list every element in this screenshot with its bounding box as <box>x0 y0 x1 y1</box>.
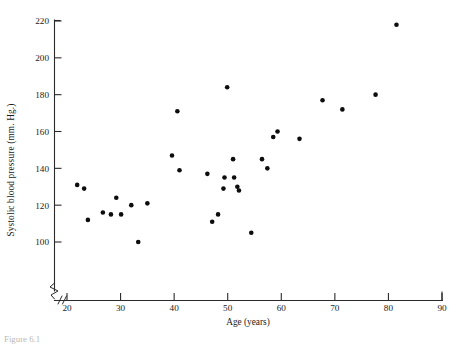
axes-group <box>55 20 443 301</box>
data-point <box>394 22 399 27</box>
data-point <box>320 98 325 103</box>
data-point <box>237 188 242 193</box>
data-point <box>114 196 119 201</box>
x-tick-label: 40 <box>170 303 180 313</box>
y-tick-label: 140 <box>35 164 49 174</box>
data-point <box>222 175 227 180</box>
figure-caption-wrap: Figure 6.1 <box>4 328 144 342</box>
x-tick-label: 90 <box>437 303 447 313</box>
data-point <box>249 230 254 235</box>
data-point <box>129 203 134 208</box>
y-tick-label: 200 <box>35 53 49 63</box>
x-tick-label: 60 <box>277 303 287 313</box>
data-point <box>271 135 276 140</box>
data-point <box>265 166 270 171</box>
y-tick-label: 120 <box>35 201 49 211</box>
y-tick-label: 160 <box>35 127 49 137</box>
y-tick-label: 180 <box>35 90 49 100</box>
y-tick-label: 100 <box>35 237 49 247</box>
x-tick-label: 70 <box>330 303 340 313</box>
x-tick-label: 50 <box>223 303 233 313</box>
data-point <box>119 212 124 217</box>
x-ticks-group: 2030405060708090 <box>62 293 447 313</box>
y-ticks-group: 100120140160180200220 <box>35 16 61 247</box>
data-point <box>373 92 378 97</box>
data-point <box>82 186 87 191</box>
data-point <box>101 210 106 215</box>
data-point <box>260 157 265 162</box>
data-point <box>275 129 280 134</box>
data-point <box>231 157 236 162</box>
x-axis-title: Age (years) <box>226 317 270 328</box>
data-point <box>86 218 91 223</box>
data-point <box>221 186 226 191</box>
data-point <box>136 240 141 245</box>
data-points-group <box>75 22 399 244</box>
data-point <box>145 201 150 206</box>
x-tick-label: 20 <box>62 303 72 313</box>
data-point <box>170 153 175 158</box>
data-point <box>216 212 221 217</box>
x-tick-label: 80 <box>384 303 394 313</box>
data-point <box>175 109 180 114</box>
y-tick-label: 220 <box>35 16 49 26</box>
data-point <box>205 172 210 177</box>
data-point <box>210 219 215 224</box>
x-tick-label: 30 <box>116 303 126 313</box>
figure-caption: Figure 6.1 <box>4 334 40 344</box>
data-point <box>297 137 302 142</box>
data-point <box>109 212 114 217</box>
data-point <box>232 175 237 180</box>
data-point <box>177 168 182 173</box>
data-point <box>225 85 230 90</box>
data-point <box>75 183 80 188</box>
data-point <box>340 107 345 112</box>
